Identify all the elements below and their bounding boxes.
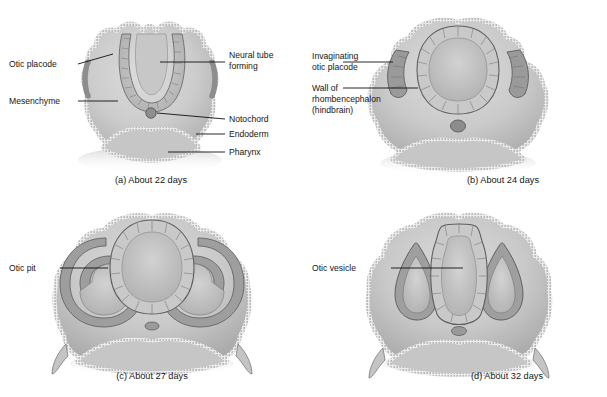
label-mesenchyme: Mesenchyme <box>9 96 60 106</box>
caption-panel-a: (a) About 22 days <box>115 175 187 185</box>
body-prong-right <box>236 344 252 374</box>
body-prong-left <box>369 348 385 378</box>
embryology-figure: Otic placode Mesenchyme Neural tube form… <box>0 0 607 397</box>
neural-canal-lumen <box>429 38 487 101</box>
panel-b-24-days: Invaginating otic placode Wall of rhombe… <box>303 0 607 198</box>
label-otic-pit: Otic pit <box>9 263 36 273</box>
body-prong-left <box>52 344 68 374</box>
neural-canal-lumen <box>441 236 476 316</box>
otic-placode-left <box>85 62 88 96</box>
label-invaginating-1: Invaginating <box>312 51 359 61</box>
caption-panel-b: (b) About 24 days <box>467 175 539 185</box>
panel-a-22-days: Otic placode Mesenchyme Neural tube form… <box>0 0 303 198</box>
label-wall-3: (hindbrain) <box>312 105 353 115</box>
notochord <box>146 108 156 118</box>
label-neural-tube-1: Neural tube <box>229 50 274 60</box>
neural-canal-lumen <box>122 232 182 302</box>
label-pharynx: Pharynx <box>229 147 261 157</box>
label-neural-tube-2: forming <box>229 61 258 71</box>
otic-placode-right <box>212 62 215 96</box>
label-otic-vesicle: Otic vesicle <box>312 263 356 273</box>
caption-panel-d: (d) About 32 days <box>471 371 543 381</box>
notochord <box>452 327 467 336</box>
notochord <box>451 120 466 132</box>
panel-c-27-days: Otic pit (c) About 27 days <box>0 198 303 397</box>
label-invaginating-2: otic placode <box>312 62 358 72</box>
panel-d-32-days: Otic vesicle (d) About 32 days <box>303 198 607 397</box>
label-notochord: Notochord <box>229 114 269 124</box>
notochord <box>145 322 159 330</box>
caption-panel-c: (c) About 27 days <box>116 371 188 381</box>
label-wall-1: Wall of <box>312 83 339 93</box>
label-otic-placode: Otic placode <box>9 59 57 69</box>
label-wall-2: rhombencephalon <box>312 94 381 104</box>
label-endoderm: Endoderm <box>229 129 269 139</box>
